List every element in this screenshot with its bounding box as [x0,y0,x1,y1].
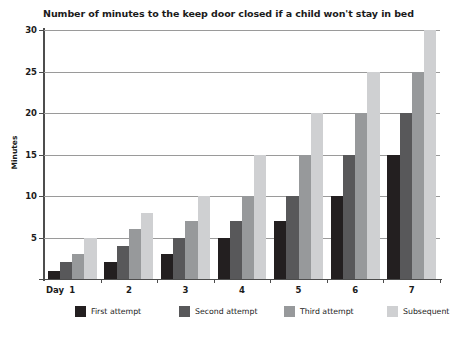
legend-item[interactable]: First attempt [75,306,141,317]
gridline [44,30,440,31]
gridline [44,155,440,156]
y-tick-mark [39,72,44,73]
legend-swatch-icon [387,306,398,317]
bar-chart: Number of minutes to the keep door close… [0,0,457,340]
y-tick-label: 30 [25,25,37,35]
legend-item[interactable]: Subsequent [387,306,449,317]
x-tick-label: 4 [239,285,245,295]
x-tick-label: 5 [296,285,302,295]
x-axis-label: Day [46,285,64,295]
y-tick-mark [39,238,44,239]
legend-label: Third attempt [300,307,354,316]
legend-swatch-icon [75,306,86,317]
bar [198,196,210,279]
bar [129,229,141,279]
x-tick-mark [440,279,441,283]
plot-area: 51015202530 [44,30,440,279]
gridline [44,72,440,73]
chart-legend: First attemptSecond attemptThird attempt… [0,306,457,330]
bar [185,221,197,279]
y-tick-label: 10 [25,191,37,201]
y-tick-mark [39,113,44,114]
x-tick-mark [101,279,102,283]
y-tick-label: 20 [25,108,37,118]
x-tick-mark [214,279,215,283]
legend-swatch-icon [284,306,295,317]
bar [117,246,129,279]
bar [311,113,323,279]
bar [254,155,266,280]
y-tick-mark [39,155,44,156]
x-tick-mark [383,279,384,283]
legend-label: Second attempt [195,307,257,316]
bar [355,113,367,279]
bar [343,155,355,280]
y-tick-label: 5 [31,233,37,243]
bar [173,238,185,280]
bar [242,196,254,279]
bar [161,254,173,279]
legend-item[interactable]: Third attempt [284,306,354,317]
bar [230,221,242,279]
legend-label: Subsequent [403,307,449,316]
bar [60,262,72,279]
x-tick-mark [157,279,158,283]
bar [400,113,412,279]
bar [141,213,153,279]
x-axis-line [44,279,442,280]
bar [424,30,436,279]
bar [218,238,230,280]
y-tick-mark [39,30,44,31]
bar [104,262,116,279]
bar [331,196,343,279]
bar [299,155,311,280]
bar [84,238,96,280]
y-tick-mark [39,196,44,197]
bar [387,155,399,280]
x-tick-mark [327,279,328,283]
bar [48,271,60,279]
gridline [44,113,440,114]
chart-title: Number of minutes to the keep door close… [0,8,457,19]
bar [412,72,424,280]
x-tick-label: 6 [352,285,358,295]
legend-swatch-icon [179,306,190,317]
legend-label: First attempt [91,307,141,316]
bar [286,196,298,279]
bar [72,254,84,279]
bar [367,72,379,280]
x-tick-label: 3 [182,285,188,295]
y-tick-label: 15 [25,150,37,160]
x-tick-mark [270,279,271,283]
bar [274,221,286,279]
x-tick-label: 1 [69,285,75,295]
legend-item[interactable]: Second attempt [179,306,257,317]
x-tick-label: 2 [126,285,132,295]
y-axis-label: Minutes [10,123,19,183]
x-tick-label: 7 [409,285,415,295]
y-tick-label: 25 [25,67,37,77]
